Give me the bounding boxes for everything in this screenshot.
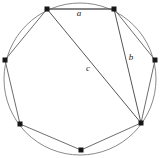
figure-canvas: a b c <box>0 0 161 158</box>
vertex-right <box>153 58 158 63</box>
circumscribed-circle <box>4 3 156 155</box>
chord-c-line <box>47 9 141 123</box>
vertex-left <box>3 58 8 63</box>
vertex-group <box>3 7 158 153</box>
vertex-lower-right <box>139 121 144 126</box>
chord-label-c: c <box>86 63 90 73</box>
vertex-bottom <box>79 148 84 153</box>
vertex-top-right <box>112 7 117 12</box>
chord-label-b: b <box>129 52 134 62</box>
chord-label-a: a <box>77 8 82 18</box>
vertex-top-left <box>45 7 50 12</box>
inscribed-polygon-diagram: a b c <box>0 0 161 158</box>
vertex-lower-left <box>18 122 23 127</box>
polygon-outline <box>5 9 155 150</box>
